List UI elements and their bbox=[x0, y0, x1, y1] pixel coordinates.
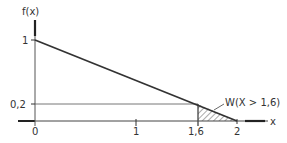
x-tick-1: 1 bbox=[133, 126, 139, 137]
annotation-leader bbox=[214, 104, 224, 110]
x-axis-label: x bbox=[270, 116, 276, 127]
x-tick-1-6: 1,6 bbox=[188, 126, 204, 137]
y-axis-label: f(x) bbox=[22, 6, 39, 17]
density-diagram: f(x) x 1 0,2 0 1 1,6 2 W(X > 1,6) bbox=[0, 0, 287, 143]
y-tick-1: 1 bbox=[22, 35, 28, 46]
density-function-line bbox=[35, 40, 237, 121]
shaded-region-label: W(X > 1,6) bbox=[225, 97, 280, 108]
y-tick-0-2: 0,2 bbox=[10, 99, 26, 110]
x-tick-0: 0 bbox=[32, 126, 38, 137]
x-tick-2: 2 bbox=[234, 126, 240, 137]
